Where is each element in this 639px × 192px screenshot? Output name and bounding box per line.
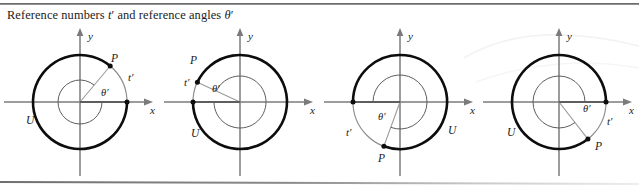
caption-prime-2: ′ (231, 8, 234, 22)
label-x-axis: x (309, 104, 315, 116)
terminal-ray (383, 102, 399, 146)
label-arc-t-prime: t′ (346, 126, 352, 138)
y-axis-arrowhead (77, 28, 84, 36)
unit-circle-diagram-quadrant-ii: Pt′θ′Uxy (160, 24, 320, 182)
y-axis-arrowhead (556, 28, 563, 36)
label-angle-theta-prime: θ′ (583, 103, 591, 114)
axes (4, 28, 153, 176)
label-y-axis: y (87, 30, 93, 42)
caption-middle: and reference angles (114, 8, 224, 22)
axis-intercept-dot (125, 100, 130, 105)
label-x-axis: x (149, 104, 155, 116)
label-point-p: P (110, 52, 118, 64)
label-x-axis: x (628, 104, 634, 116)
axis-intercept-dot (190, 100, 195, 105)
label-angle-theta-prime: θ′ (101, 87, 109, 98)
label-unit-circle-u: U (26, 114, 35, 126)
unit-circle-diagram-quadrant-iv: Pt′θ′Uxy (479, 24, 639, 182)
axis-intercept-dot (604, 100, 609, 105)
label-point-p: P (594, 140, 602, 152)
label-unit-circle-u: U (448, 124, 457, 136)
point-p-dot (108, 63, 113, 68)
axes (483, 28, 632, 176)
point-p-dot (381, 144, 386, 149)
figure-container: Reference numbers t′ and reference angle… (0, 0, 639, 192)
label-point-p: P (377, 152, 385, 164)
label-arc-t-prime: t′ (607, 115, 613, 127)
label-y-axis: y (566, 30, 572, 42)
y-axis-arrowhead (236, 28, 243, 36)
unit-circle-diagram-quadrant-iii: Pt′θ′Uxy (320, 24, 480, 182)
diagram-row: Pt′θ′UxyPt′θ′UxyPt′θ′UxyPt′θ′Uxy (0, 24, 639, 182)
point-p-dot (586, 137, 591, 142)
y-axis-arrowhead (396, 28, 403, 36)
label-point-p: P (189, 54, 197, 66)
label-unit-circle-u: U (507, 126, 516, 138)
label-arc-t-prime: t′ (128, 71, 134, 83)
label-arc-t-prime: t′ (184, 76, 190, 88)
label-angle-theta-prime: θ′ (378, 111, 386, 122)
label-angle-theta-prime: θ′ (212, 83, 220, 94)
figure-caption: Reference numbers t′ and reference angle… (7, 8, 233, 23)
label-y-axis: y (407, 30, 413, 42)
caption-prefix: Reference numbers (7, 8, 108, 22)
unit-circle-diagram-quadrant-i: Pt′θ′Uxy (0, 24, 160, 182)
label-x-axis: x (469, 104, 475, 116)
top-rule (0, 3, 639, 5)
label-unit-circle-u: U (191, 127, 200, 139)
point-p-dot (195, 80, 200, 85)
label-y-axis: y (247, 30, 253, 42)
axis-intercept-dot (350, 100, 355, 105)
